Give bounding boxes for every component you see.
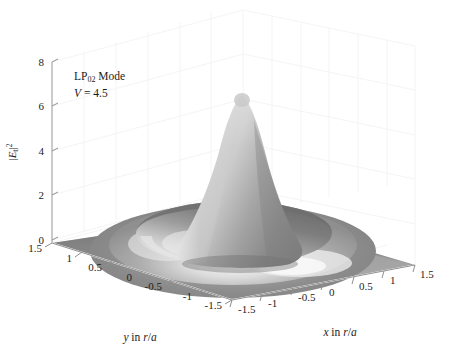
surface-plot-figure: 0 2 4 6 8 1.5 1 0.5 0 -0.5 -1 -1.5 -1.5 … — [0, 0, 466, 356]
svg-text:|Et|2: |Et|2 — [5, 143, 20, 160]
plot-canvas: 0 2 4 6 8 1.5 1 0.5 0 -0.5 -1 -1.5 -1.5 … — [0, 0, 466, 356]
y-tick-label-0.5: 0.5 — [88, 261, 102, 273]
x-tick-label-neg1.5: -1.5 — [238, 303, 256, 315]
z-tick-label-8: 8 — [39, 56, 45, 68]
z-axis-title: |Et|2 — [5, 143, 20, 160]
y-axis-title: y in r/a — [122, 331, 157, 344]
x-tick-label-0.5: 0.5 — [359, 280, 373, 292]
x-tick-label-neg0.5: -0.5 — [298, 291, 316, 303]
x-axis-title: x in r/a — [322, 326, 357, 338]
mode-annotation-prefix: LP — [74, 70, 87, 82]
y-tick-label-1.5: 1.5 — [28, 242, 42, 254]
y-tick-label-neg1: -1 — [183, 290, 192, 302]
y-tick-label-neg0.5: -0.5 — [145, 280, 163, 292]
central-peak-apex — [234, 93, 250, 107]
y-tick-label-1: 1 — [67, 252, 73, 264]
mode-annotation-suffix: Mode — [95, 70, 125, 82]
z-tick-labels: 0 2 4 6 8 — [39, 56, 45, 246]
x-tick-label-neg1: -1 — [268, 297, 277, 309]
y-tick-label-0: 0 — [127, 271, 133, 283]
x-tick-label-0: 0 — [329, 286, 335, 298]
x-tick-label-1: 1 — [390, 274, 396, 286]
z-axis — [52, 59, 58, 243]
v-value-text: = 4.5 — [81, 87, 108, 99]
mode-annotation-subscript: 02 — [87, 75, 95, 84]
v-parameter-annotation: V = 4.5 — [74, 87, 108, 99]
mode-annotation: LP02 Mode — [74, 70, 125, 84]
x-tick-label-1.5: 1.5 — [420, 268, 434, 280]
z-tick-label-2: 2 — [39, 189, 45, 201]
y-tick-label-neg1.5: -1.5 — [205, 299, 223, 311]
z-tick-label-4: 4 — [39, 145, 45, 157]
z-tick-label-6: 6 — [39, 100, 45, 112]
